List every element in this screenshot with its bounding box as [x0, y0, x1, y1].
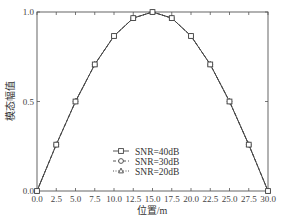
- legend-item: SNR=40dB: [113, 147, 179, 157]
- legend: SNR=40dBSNR=30dBSNR=20dB: [113, 147, 179, 177]
- square-marker: [227, 99, 232, 104]
- legend-label: SNR=40dB: [135, 147, 179, 157]
- circle-marker: [119, 159, 124, 164]
- x-tick-label: 10.0: [106, 194, 122, 204]
- square-marker: [169, 16, 174, 21]
- square-marker: [189, 34, 194, 39]
- legend-label: SNR=30dB: [135, 157, 179, 167]
- y-tick-label: 0.5: [23, 97, 35, 107]
- x-tick-label: 27.5: [241, 194, 257, 204]
- legend-item: SNR=20dB: [113, 167, 179, 177]
- square-marker: [119, 149, 124, 154]
- y-tick-label: 1.0: [23, 7, 35, 17]
- square-marker: [246, 142, 251, 147]
- x-tick-label: 15.0: [145, 194, 161, 204]
- x-axis-label: 位置/m: [137, 204, 168, 216]
- triangle-marker: [119, 168, 124, 173]
- x-tick-label: 7.5: [89, 194, 101, 204]
- y-axis-label: 模态幅值: [4, 81, 16, 121]
- square-marker: [112, 34, 117, 39]
- x-tick-label: 30.0: [260, 194, 276, 204]
- square-marker: [92, 62, 97, 67]
- square-marker: [131, 16, 136, 21]
- x-tick-label: 2.5: [51, 194, 63, 204]
- square-marker: [54, 142, 59, 147]
- legend-label: SNR=20dB: [135, 167, 179, 177]
- x-tick-label: 22.5: [202, 194, 218, 204]
- square-marker: [35, 189, 40, 194]
- x-tick-label: 17.5: [164, 194, 180, 204]
- x-tick-label: 12.5: [125, 194, 141, 204]
- x-tick-label: 25.0: [222, 194, 238, 204]
- square-marker: [150, 10, 155, 15]
- mode-shape-chart: 0.02.55.07.510.012.515.017.520.022.525.0…: [0, 0, 287, 222]
- x-tick-label: 5.0: [70, 194, 82, 204]
- y-tick-label: 0.0: [23, 186, 35, 196]
- legend-item: SNR=30dB: [113, 157, 179, 167]
- square-marker: [73, 99, 78, 104]
- square-marker: [208, 62, 213, 67]
- x-tick-label: 20.0: [183, 194, 199, 204]
- square-marker: [266, 189, 271, 194]
